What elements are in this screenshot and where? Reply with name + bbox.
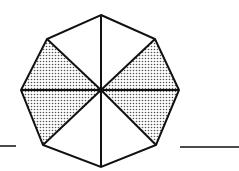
spokes [21,15,179,167]
octagon-diagram [0,0,239,171]
octagon-figure [0,0,239,171]
